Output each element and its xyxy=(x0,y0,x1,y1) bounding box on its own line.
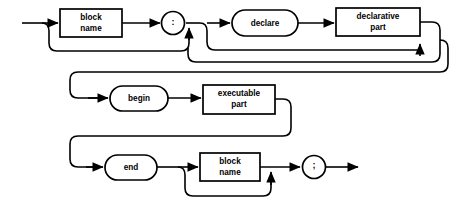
node-executable-part-label-line-2: part xyxy=(231,100,247,109)
node-colon-1[interactable]: : xyxy=(162,12,185,35)
node-declarative-part-label-line-2: part xyxy=(370,23,386,32)
railroad-diagram-canvas: block name : declare declarative part be… xyxy=(0,0,469,211)
node-semicolon-1-label: ; xyxy=(313,160,316,170)
node-end[interactable]: end xyxy=(105,155,157,180)
node-declare-label: declare xyxy=(251,19,280,28)
node-block-name-1-label-line-2: name xyxy=(80,24,102,33)
node-declarative-part-label-line-1: declarative xyxy=(357,12,400,21)
node-executable-part-label-line-1: executable xyxy=(218,89,261,98)
railroad-diagram-container: block name : declare declarative part be… xyxy=(0,0,469,211)
node-block-name-2[interactable]: block name xyxy=(200,153,260,181)
node-end-label: end xyxy=(124,163,139,172)
node-declare[interactable]: declare xyxy=(232,10,298,36)
node-semicolon-1[interactable]: ; xyxy=(303,156,326,179)
node-executable-part[interactable]: executable part xyxy=(203,85,275,114)
node-begin-label: begin xyxy=(128,94,150,103)
node-block-name-2-label-line-2: name xyxy=(219,168,241,177)
node-block-name-2-label-line-1: block xyxy=(219,157,241,166)
node-block-name-1-label-line-1: block xyxy=(80,13,102,22)
node-colon-1-label: : xyxy=(172,17,175,27)
node-block-name-1[interactable]: block name xyxy=(60,9,122,37)
node-begin[interactable]: begin xyxy=(110,86,168,111)
node-declarative-part[interactable]: declarative part xyxy=(336,8,420,36)
